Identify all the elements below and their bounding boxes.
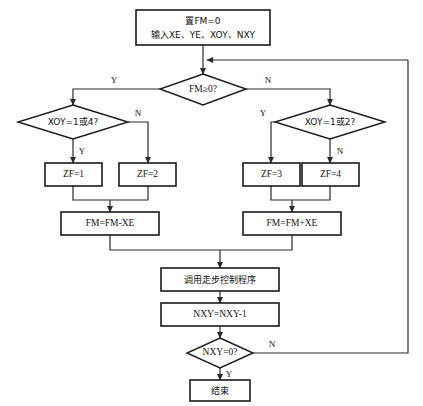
- node-zf3-label: ZF=3: [261, 169, 282, 179]
- connector-fm-yes-to-left-decision: [73, 89, 160, 105]
- branch-label-fm-no: N: [265, 75, 272, 85]
- connector-left-no-to-zf2: [128, 122, 148, 163]
- connector-fm-no-to-right-decision: [246, 89, 330, 105]
- node-decision-nxy-label: NXY=0?: [203, 347, 238, 357]
- branch-label-left-no: N: [135, 108, 142, 118]
- node-decrement-label: NXY=NXY-1: [193, 309, 247, 319]
- node-fm-minus-label: FM=FM-XE: [86, 218, 135, 228]
- branch-label-left-yes: Y: [79, 146, 86, 156]
- branch-label-fm-yes: Y: [111, 75, 118, 85]
- connector-fm-branches-merge: [110, 235, 292, 250]
- node-call-sub-label: 调用走步控制程序: [184, 274, 256, 285]
- flowchart-svg: 置FM=0 输入XE、YE、XOY、NXY FM≥0? Y N XOY=1或4?…: [0, 0, 423, 406]
- branch-label-right-yes: Y: [260, 108, 267, 118]
- node-start-line2: 输入XE、YE、XOY、NXY: [151, 29, 256, 40]
- node-zf2-label: ZF=2: [137, 169, 158, 179]
- node-start-line1: 置FM=0: [185, 16, 220, 26]
- node-decision-right-label: XOY=1或2?: [305, 116, 356, 127]
- connector-zf3-zf4-merge: [271, 186, 330, 200]
- node-decision-fm-label: FM≥0?: [189, 84, 217, 94]
- connector-zf1-zf2-merge: [73, 186, 148, 200]
- branch-label-nxy-no: N: [269, 339, 276, 349]
- node-fm-plus-label: FM=FM+XE: [267, 218, 318, 228]
- connector-right-yes-to-zf3: [271, 122, 275, 163]
- node-end-label: 结束: [211, 385, 229, 396]
- node-decision-left-label: XOY=1或4?: [48, 116, 99, 127]
- node-zf4-label: ZF=4: [320, 169, 341, 179]
- branch-label-right-no: N: [337, 146, 344, 156]
- flowchart-canvas: 置FM=0 输入XE、YE、XOY、NXY FM≥0? Y N XOY=1或4?…: [0, 0, 423, 406]
- node-zf1-label: ZF=1: [63, 169, 84, 179]
- branch-label-nxy-yes: Y: [226, 369, 233, 379]
